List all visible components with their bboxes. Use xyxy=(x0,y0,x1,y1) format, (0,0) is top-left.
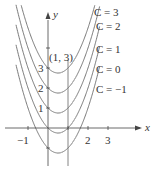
curve-label-c3: C = 3 xyxy=(94,6,119,18)
tangent-segment xyxy=(71,135,77,145)
x-tick-label-neg1: −1 xyxy=(17,134,29,146)
x-axis-arrow-icon xyxy=(135,126,142,131)
tangent-segment xyxy=(71,115,77,125)
x-tick-label-2: 2 xyxy=(85,134,91,146)
y-tick-label-1: 1 xyxy=(38,102,44,114)
x-tick-label-3: 3 xyxy=(105,134,111,146)
y-tick-label-3: 3 xyxy=(38,62,44,74)
parabola-family-diagram: x y −1 2 3 1 2 3 (1, 3) C = 3 C = 2 C = … xyxy=(0,0,156,171)
curve-label-c0: C = 0 xyxy=(96,63,121,75)
point-label-1-3: (1, 3) xyxy=(49,51,73,64)
curve-label-c2: C = 2 xyxy=(96,20,121,32)
tangent-segment xyxy=(71,75,77,85)
x-axis-label: x xyxy=(144,121,150,133)
tangent-segments xyxy=(57,55,77,153)
curve-c1 xyxy=(16,25,100,113)
curve-label-cneg1: C = −1 xyxy=(96,83,127,95)
curve-label-c1: C = 1 xyxy=(96,43,121,55)
tangent-segment xyxy=(71,95,77,105)
y-tick-label-2: 2 xyxy=(38,82,44,94)
y-axis-arrow-icon xyxy=(46,12,51,19)
y-axis-label: y xyxy=(52,8,58,20)
curves-group xyxy=(16,5,100,153)
